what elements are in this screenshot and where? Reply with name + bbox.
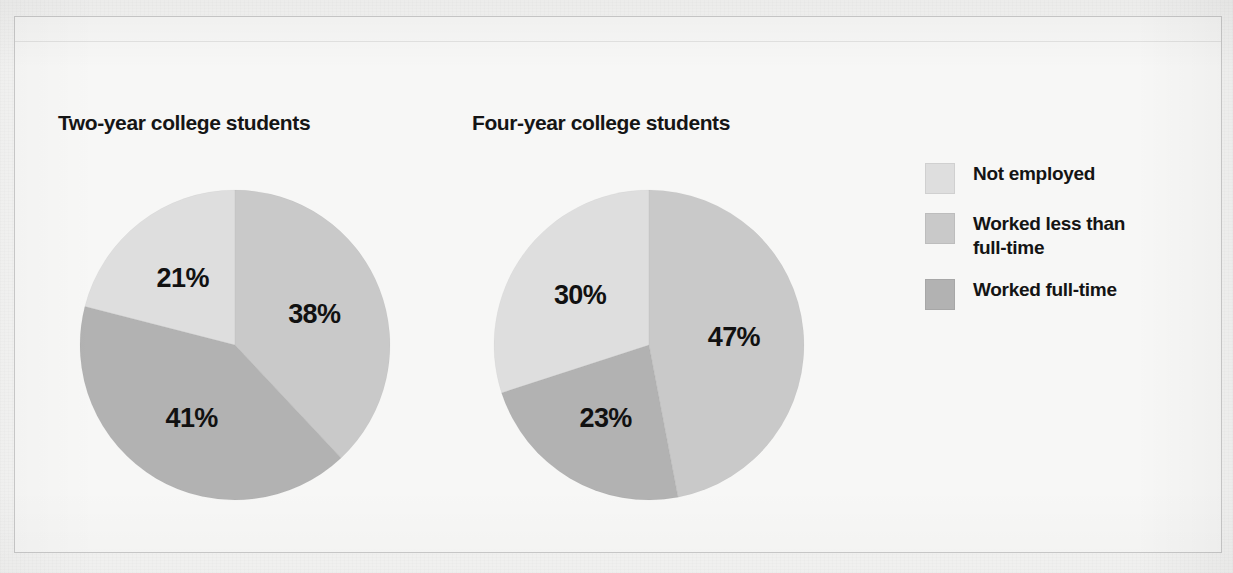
legend-label-line-2: full-time [973,237,1044,258]
pie-chart-two-year: 21%38%41% [78,188,392,502]
legend-swatch-not-employed [925,163,955,194]
pie-title-two-year: Two-year college students [58,111,310,135]
frame-top-rule [15,41,1221,42]
pie-chart-four-year: 30%47%23% [492,188,806,502]
legend-item-not-employed: Not employed [925,162,1205,194]
pie-slice-label: 21% [157,263,210,293]
pie-two-year-slices [80,190,390,500]
legend-label-not-employed: Not employed [973,162,1095,186]
pie-slice-label: 38% [288,299,341,329]
legend-label-worked-less-than-full-time: Worked less thanfull-time [973,212,1125,260]
figure-root: Two-year college students Four-year coll… [0,0,1233,573]
pie-slice-label: 47% [708,322,761,352]
pie-slice-label: 30% [554,280,607,310]
pie-slice-label: 23% [579,403,632,433]
legend-item-worked-full-time: Worked full-time [925,278,1205,310]
legend: Not employed Worked less thanfull-time W… [925,162,1205,328]
legend-swatch-worked-full-time [925,279,955,310]
pie-slice-label: 41% [165,403,218,433]
legend-label-worked-full-time: Worked full-time [973,278,1117,302]
legend-swatch-worked-less-than-full-time [925,213,955,244]
pie-four-year-svg: 30%47%23% [492,188,806,502]
legend-label-line-1: Worked less than [973,213,1125,234]
legend-item-worked-less-than-full-time: Worked less thanfull-time [925,212,1205,260]
pie-title-four-year: Four-year college students [472,111,730,135]
pie-two-year-svg: 21%38%41% [78,188,392,502]
